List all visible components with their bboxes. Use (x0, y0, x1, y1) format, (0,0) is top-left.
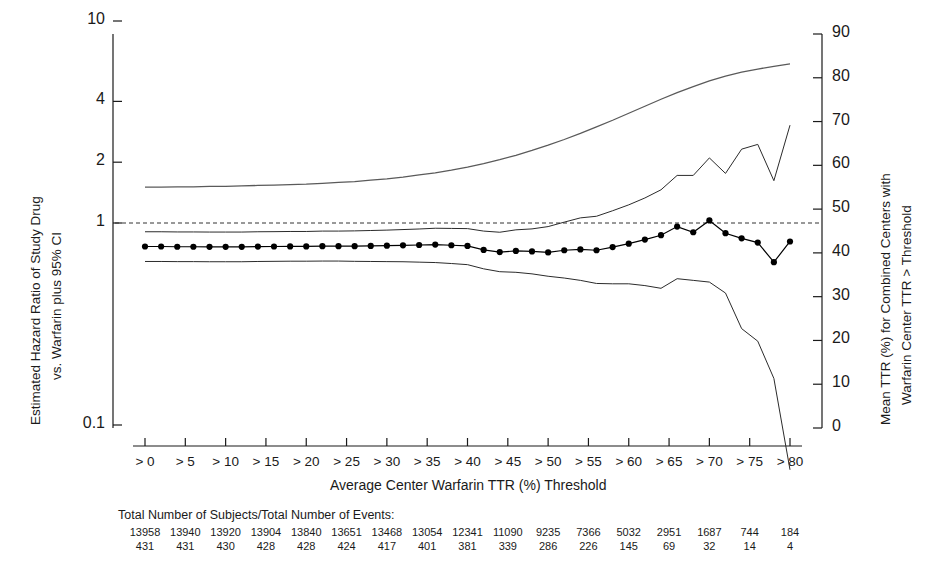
y-axis-left-tick-label: 1 (45, 212, 105, 230)
y-axis-right-tick-label: 0 (832, 417, 841, 435)
x-axis-tick-label: > 40 (449, 454, 487, 469)
x-axis-tick-label: > 80 (771, 454, 809, 469)
plot-canvas (0, 0, 939, 584)
y-axis-right-ticks (813, 34, 822, 428)
y-axis-right-tick-label: 80 (832, 67, 850, 85)
y-axis-right-tick-label: 60 (832, 154, 850, 172)
x-axis-tick-label: > 60 (610, 454, 648, 469)
y-axis-right-tick-label: 50 (832, 198, 850, 216)
series-hazard-ratio-line (145, 220, 790, 262)
y-axis-left-tick-label: 4 (45, 90, 105, 108)
x-axis-tick-label: > 0 (126, 454, 164, 469)
y-axis-right-tick-label: 90 (832, 23, 850, 41)
x-axis-tick-label: > 50 (529, 454, 567, 469)
y-axis-right-tick-label: 70 (832, 111, 850, 129)
x-axis-tick-label: > 5 (166, 454, 204, 469)
axis-lines (113, 34, 822, 446)
x-axis-tick-label: > 10 (207, 454, 245, 469)
series-upper-ci-line (145, 125, 790, 232)
y-axis-right-tick-label: 10 (832, 373, 850, 391)
x-axis-tick-label: > 20 (287, 454, 325, 469)
x-axis-tick-label: > 70 (690, 454, 728, 469)
series-hazard-ratio-points (142, 217, 793, 265)
series-mean-ttr-line (145, 64, 790, 187)
x-axis-tick-label: > 25 (328, 454, 366, 469)
y-axis-right-tick-label: 30 (832, 286, 850, 304)
y-axis-left-tick-label: 10 (45, 10, 105, 28)
y-axis-left-tick-label: 2 (45, 151, 105, 169)
forest-threshold-chart: Estimated Hazard Ratio of Study Drug vs.… (0, 0, 939, 584)
x-axis-tick-label: > 30 (368, 454, 406, 469)
x-axis-ticks (145, 438, 790, 446)
y-axis-left-tick-label: 0.1 (45, 414, 105, 432)
y-axis-right-tick-label: 20 (832, 329, 850, 347)
y-axis-right-tick-label: 40 (832, 242, 850, 260)
x-axis-tick-label: > 75 (731, 454, 769, 469)
x-axis-tick-label: > 45 (489, 454, 527, 469)
x-axis-tick-label: > 15 (247, 454, 285, 469)
x-axis-tick-label: > 55 (569, 454, 607, 469)
x-axis-tick-label: > 35 (408, 454, 446, 469)
x-axis-tick-label: > 65 (650, 454, 688, 469)
